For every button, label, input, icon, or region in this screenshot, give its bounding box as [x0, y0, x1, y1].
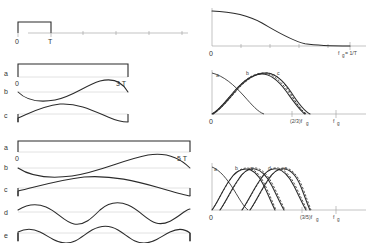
row-label-b-bottom: b	[4, 164, 8, 171]
panel-mid-right: a b c 0 (2/3)f g f g	[209, 70, 366, 126]
panel-top-right: 0 f g = 1/T	[209, 8, 366, 58]
spectrum-curve-c-dash-mid	[213, 73, 307, 114]
spectrum-curve-d-dash-bottom	[242, 168, 307, 210]
svg-text:f: f	[338, 50, 340, 56]
row-label-c-mid: c	[4, 112, 8, 119]
row-label-b-mid: b	[4, 88, 8, 95]
row-b-mid-left: b	[4, 80, 128, 101]
row-e-bottom-left: e	[4, 226, 190, 243]
row-a-bottom-left: a 0 5 T	[4, 141, 190, 162]
panel-mid-left: a 0 3 T b c	[4, 64, 128, 122]
spectrum-label-b-mid: b	[246, 70, 249, 76]
label-duration-bottom-left: 5 T	[177, 155, 188, 162]
label-origin-bottom-left: 0	[15, 155, 19, 162]
label-origin-mid-right: 0	[209, 118, 213, 125]
label-duration-top-left: T	[48, 38, 53, 45]
label-origin-top-right: 0	[209, 50, 213, 57]
label-origin-mid-left: 0	[15, 80, 19, 87]
spectrum-label-a-bottom: a	[214, 166, 217, 172]
row-d-bottom-left: d	[4, 203, 190, 224]
label-mark-mid-right: (2/3)f g	[290, 118, 309, 126]
row-label-e-bottom: e	[4, 232, 8, 239]
label-origin-top-left: 0	[15, 38, 19, 45]
row-label-a-bottom: a	[4, 144, 8, 151]
spectrum-curve-c-mid	[213, 73, 310, 114]
diagram-svg: 0 T 0 f g = 1/T a 0 3 T b	[0, 0, 373, 243]
row-c-mid-left: c	[4, 104, 128, 122]
svg-text:g: g	[337, 121, 340, 126]
label-cutoff-top-right: f g = 1/T	[338, 50, 358, 58]
spectrum-curve-c-bottom	[220, 169, 284, 210]
panel-bottom-left: a 0 5 T b c d e	[4, 141, 190, 243]
spectrum-label-d-bottom: d	[268, 165, 271, 171]
spectrum-curve-c-dash-bottom	[220, 168, 285, 210]
row-b-bottom-left: b	[4, 154, 190, 177]
svg-text:= 1/T: = 1/T	[345, 50, 358, 56]
label-mark-bottom-right: (3/5)f g	[300, 214, 319, 222]
axis-label-mid-right: f g	[333, 118, 340, 126]
svg-text:(2/3)f: (2/3)f	[290, 118, 303, 124]
svg-text:g: g	[316, 217, 319, 222]
spectrum-label-c-bottom: c	[250, 165, 253, 171]
svg-text:g: g	[337, 217, 340, 222]
spectrum-label-a-mid: a	[216, 72, 219, 78]
svg-text:(3/5)f: (3/5)f	[300, 214, 313, 220]
spectrum-curve-e-bottom	[250, 169, 310, 210]
panel-top-left: 0 T	[15, 22, 188, 45]
spectrum-label-e-bottom: e	[284, 165, 287, 171]
spectrum-label-b-bottom: b	[235, 165, 238, 171]
row-c-bottom-left: c	[4, 177, 190, 196]
row-label-a-mid: a	[4, 70, 8, 77]
svg-text:f: f	[333, 214, 335, 220]
svg-text:g: g	[306, 121, 309, 126]
figure-canvas: 0 T 0 f g = 1/T a 0 3 T b	[0, 0, 373, 243]
row-label-d-bottom: d	[4, 209, 8, 216]
spectrum-label-c-mid: c	[277, 70, 280, 76]
label-origin-bottom-right: 0	[209, 214, 213, 221]
axis-label-bottom-right: f g	[333, 214, 340, 222]
row-label-c-bottom: c	[4, 186, 8, 193]
panel-bottom-right: a b c d e 0 (3/5)f g f g	[209, 163, 366, 222]
svg-text:f: f	[333, 118, 335, 124]
row-a-mid-left: a 0 3 T	[4, 64, 128, 87]
